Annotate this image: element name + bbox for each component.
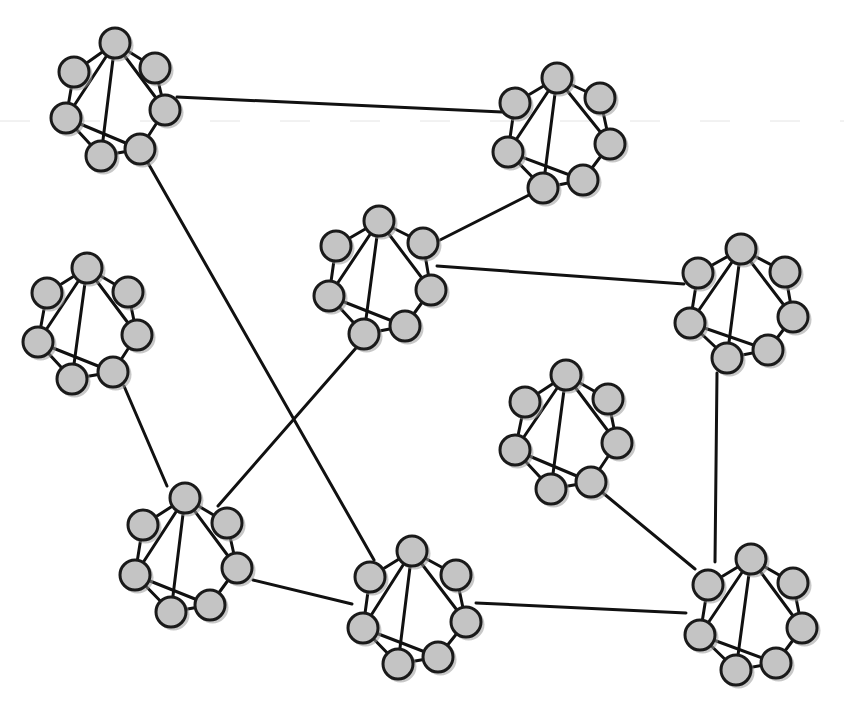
node-c6-r: [602, 428, 632, 458]
node-c5-top: [72, 253, 102, 283]
node-c3-top: [364, 206, 394, 236]
node-c8-r: [451, 607, 481, 637]
node-c3-l: [314, 281, 344, 311]
node-c1-br: [125, 134, 155, 164]
node-c7-l: [120, 560, 150, 590]
node-c9-br: [761, 648, 791, 678]
node-c3-ul: [321, 231, 351, 261]
node-c1-bl: [86, 141, 116, 171]
node-c8-ur: [441, 560, 471, 590]
cluster-c9: [685, 544, 821, 689]
node-c7-ur: [212, 508, 242, 538]
inter-cluster-edge-10: [476, 603, 686, 613]
inter-cluster-edge-4: [437, 266, 684, 284]
node-c6-l: [500, 435, 530, 465]
node-c4-top: [726, 234, 756, 264]
node-c2-bl: [528, 173, 558, 203]
node-c7-ul: [128, 510, 158, 540]
node-c9-l: [685, 620, 715, 650]
cluster-c5: [23, 253, 156, 398]
node-c5-ur: [113, 277, 143, 307]
node-c7-r: [222, 553, 252, 583]
cluster-c2: [493, 63, 629, 207]
node-c4-l: [675, 308, 705, 338]
node-c5-r: [122, 320, 152, 350]
inter-cluster-edge-9: [253, 580, 352, 604]
inter-cluster-edge-3: [440, 195, 529, 240]
cluster-c3: [314, 206, 450, 353]
cluster-c8: [348, 536, 485, 683]
node-c2-l: [493, 137, 523, 167]
node-c6-br: [576, 467, 606, 497]
node-c2-ul: [500, 88, 530, 118]
node-c4-ul: [683, 258, 713, 288]
node-c6-bl: [536, 474, 566, 504]
node-c7-bl: [156, 597, 186, 627]
node-c2-top: [542, 63, 572, 93]
node-c1-r: [150, 95, 180, 125]
inter-cluster-edge-6: [124, 386, 167, 486]
node-c3-br: [390, 311, 420, 341]
node-c3-ur: [408, 228, 438, 258]
node-c9-top: [736, 544, 766, 574]
node-c9-ul: [693, 570, 723, 600]
node-c1-ul: [59, 57, 89, 87]
node-c4-br: [753, 335, 783, 365]
node-c9-bl: [721, 655, 751, 685]
node-c5-bl: [57, 364, 87, 394]
node-c1-ur: [140, 53, 170, 83]
node-c9-r: [787, 613, 817, 643]
inter-cluster-edge-7: [715, 373, 717, 562]
node-c5-l: [23, 327, 53, 357]
node-c1-l: [51, 103, 81, 133]
clusters: [23, 28, 821, 689]
node-c9-ur: [778, 568, 808, 598]
cluster-c6: [500, 360, 636, 508]
node-c1-top: [100, 28, 130, 58]
node-c6-top: [551, 360, 581, 390]
node-c4-ur: [770, 257, 800, 287]
node-c2-ur: [585, 83, 615, 113]
node-c2-r: [595, 129, 625, 159]
node-c5-br: [98, 357, 128, 387]
network-diagram: [0, 0, 844, 714]
inter-cluster-edge-1: [177, 97, 502, 112]
node-c8-top: [397, 536, 427, 566]
cluster-c4: [675, 234, 812, 377]
node-c3-bl: [349, 319, 379, 349]
node-c7-top: [170, 483, 200, 513]
node-c4-bl: [712, 343, 742, 373]
node-c6-ur: [593, 384, 623, 414]
cluster-c1: [51, 28, 184, 175]
node-c8-br: [423, 642, 453, 672]
node-c5-ul: [32, 278, 62, 308]
inter-cluster-edge-8: [603, 493, 695, 569]
node-c7-br: [195, 590, 225, 620]
node-c8-ul: [355, 562, 385, 592]
node-c3-r: [416, 275, 446, 305]
node-c8-l: [348, 613, 378, 643]
inter-cluster-edge-5: [218, 348, 356, 506]
node-c4-r: [778, 302, 808, 332]
cluster-c7: [120, 483, 256, 631]
node-c6-ul: [510, 387, 540, 417]
node-c2-br: [568, 165, 598, 195]
node-c8-bl: [383, 649, 413, 679]
